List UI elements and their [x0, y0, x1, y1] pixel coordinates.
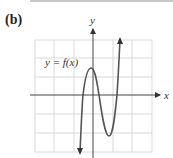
function-annotation: y = f(x) — [44, 56, 78, 69]
x-axis-label: x — [163, 89, 169, 101]
y-axis-label: y — [89, 14, 95, 26]
function-graph: x y y = f(x) — [0, 0, 173, 158]
function-curve — [80, 40, 120, 152]
axes — [30, 29, 160, 158]
